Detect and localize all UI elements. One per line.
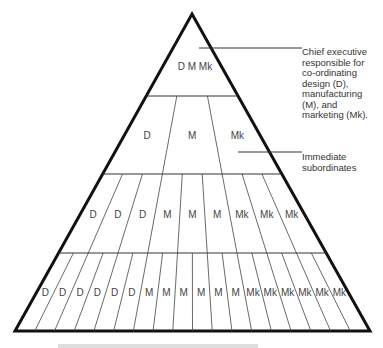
cell-divider	[207, 96, 222, 174]
role-label-m: M	[188, 209, 196, 220]
role-label-m: M	[197, 287, 205, 298]
cell-divider	[202, 174, 207, 253]
role-label-m: M	[213, 209, 221, 220]
cell-divider	[178, 174, 183, 253]
level-3-level-3: DDDMMMMkMkMk	[88, 174, 299, 253]
cell-divider	[207, 253, 212, 331]
role-label-m: M	[145, 287, 153, 298]
cropped-caption	[58, 344, 258, 348]
level-4-level-4: DDDDDDMMMMMMMkMkMkMkMkMk	[35, 253, 351, 331]
annotation-line: manufacturing	[302, 89, 368, 100]
chief-executive-label: D M Mk	[178, 61, 213, 72]
subordinates-annotation: Immediate subordinates	[302, 152, 356, 173]
role-label-mk: Mk	[235, 209, 249, 220]
role-label-mk: Mk	[285, 209, 299, 220]
role-label-d: D	[143, 130, 150, 141]
annotation-line: marketing (Mk).	[302, 110, 368, 121]
role-label-mk: Mk	[246, 287, 260, 298]
role-label-m: M	[232, 287, 240, 298]
role-label-mk: Mk	[333, 287, 347, 298]
role-label-mk: Mk	[264, 287, 278, 298]
role-label-d: D	[128, 287, 135, 298]
role-label-m: M	[162, 287, 170, 298]
role-label-m: M	[180, 287, 188, 298]
role-label-d: D	[111, 287, 118, 298]
cell-divider	[173, 253, 178, 331]
role-label-d: D	[139, 209, 146, 220]
level-2-immediate-subordinates: DMMk	[143, 96, 245, 174]
role-label-mk: Mk	[281, 287, 295, 298]
role-label-d: D	[114, 209, 121, 220]
chief-executive-annotation: Chief executive responsible for co-ordin…	[302, 47, 368, 121]
cell-divider	[35, 253, 74, 331]
role-label-mk: Mk	[260, 209, 274, 220]
role-label-d: D	[94, 287, 101, 298]
role-label-mk: Mk	[315, 287, 329, 298]
annotation-line: Chief executive	[302, 47, 368, 58]
cell-divider	[162, 96, 176, 174]
annotation-line: subordinates	[302, 163, 356, 174]
role-label-mk: Mk	[298, 287, 312, 298]
role-label-d: D	[89, 209, 96, 220]
role-label-m: M	[163, 209, 171, 220]
role-label-d: D	[42, 287, 49, 298]
annotation-line: Immediate	[302, 152, 356, 163]
cell-divider	[222, 253, 232, 331]
role-label-d: D	[76, 287, 83, 298]
cell-divider	[153, 253, 163, 331]
role-label-mk: Mk	[231, 130, 245, 141]
organisation-pyramid-diagram: D M MkDMMkDDDMMMMkMkMkDDDDDDMMMMMMMkMkMk…	[0, 0, 383, 348]
annotation-line: co-ordinating	[302, 68, 368, 79]
cell-divider	[148, 174, 163, 253]
role-label-m: M	[188, 130, 196, 141]
role-label-m: M	[214, 287, 222, 298]
role-label-d: D	[59, 287, 66, 298]
